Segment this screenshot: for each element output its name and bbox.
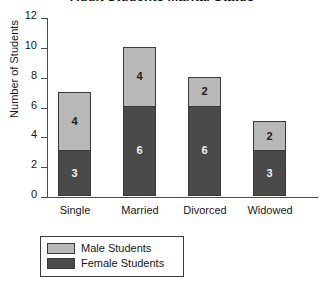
y-tick-8: 8 bbox=[41, 78, 47, 79]
y-axis-title: Number of Students bbox=[8, 4, 20, 134]
y-tick-label-10: 10 bbox=[25, 40, 37, 51]
y-tick-0: 0 bbox=[41, 197, 47, 198]
legend-label-male-students: Male Students bbox=[81, 243, 151, 254]
legend-label-female-students: Female Students bbox=[81, 258, 164, 269]
bar-value-male-widowed: 2 bbox=[266, 131, 272, 142]
x-axis-label-divorced: Divorced bbox=[168, 204, 242, 216]
y-tick-2: 2 bbox=[41, 167, 47, 168]
bar-group-single[interactable]: 4 3 bbox=[58, 92, 91, 196]
plot-area: 12 10 8 6 4 2 0 4 3 4 6 2 bbox=[47, 18, 318, 197]
y-tick-label-0: 0 bbox=[31, 189, 37, 200]
bar-value-female-single: 3 bbox=[71, 168, 77, 179]
y-tick-label-6: 6 bbox=[31, 100, 37, 111]
bar-value-male-single: 4 bbox=[71, 116, 77, 127]
legend-item-male-students[interactable]: Male Students bbox=[47, 241, 177, 256]
y-tick-label-4: 4 bbox=[31, 129, 37, 140]
x-axis-line bbox=[41, 197, 318, 198]
y-tick-12: 12 bbox=[41, 18, 47, 19]
x-axis-label-married: Married bbox=[103, 204, 177, 216]
bar-value-female-widowed: 3 bbox=[266, 168, 272, 179]
x-axis-label-widowed: Widowed bbox=[233, 204, 307, 216]
legend-swatch-male-icon bbox=[47, 243, 75, 254]
bar-segment-male-single[interactable]: 4 bbox=[58, 92, 91, 152]
y-tick-label-12: 12 bbox=[25, 10, 37, 21]
bar-group-married[interactable]: 4 6 bbox=[123, 47, 156, 196]
y-tick-4: 4 bbox=[41, 137, 47, 138]
bar-value-male-married: 4 bbox=[136, 71, 142, 82]
y-axis-line bbox=[47, 18, 48, 198]
legend-item-female-students[interactable]: Female Students bbox=[47, 256, 177, 271]
x-axis-label-single: Single bbox=[38, 204, 112, 216]
y-tick-label-2: 2 bbox=[31, 159, 37, 170]
y-tick-6: 6 bbox=[41, 108, 47, 109]
bar-segment-female-divorced[interactable]: 6 bbox=[188, 106, 221, 197]
bar-value-male-divorced: 2 bbox=[201, 86, 207, 97]
bar-segment-female-married[interactable]: 6 bbox=[123, 106, 156, 197]
legend-swatch-female-icon bbox=[47, 258, 75, 269]
bar-value-female-divorced: 6 bbox=[201, 145, 207, 156]
bar-segment-male-married[interactable]: 4 bbox=[123, 47, 156, 107]
bar-segment-female-single[interactable]: 3 bbox=[58, 150, 91, 196]
bar-segment-female-widowed[interactable]: 3 bbox=[253, 150, 286, 196]
bar-value-female-married: 6 bbox=[136, 145, 142, 156]
y-tick-10: 10 bbox=[41, 48, 47, 49]
bar-group-divorced[interactable]: 2 6 bbox=[188, 77, 221, 196]
y-tick-label-8: 8 bbox=[31, 70, 37, 81]
bar-group-widowed[interactable]: 2 3 bbox=[253, 121, 286, 196]
chart-title: Adult Students Marital Status bbox=[0, 0, 324, 4]
bar-segment-male-widowed[interactable]: 2 bbox=[253, 121, 286, 151]
bar-segment-male-divorced[interactable]: 2 bbox=[188, 77, 221, 107]
chart-legend: Male Students Female Students bbox=[40, 236, 184, 277]
